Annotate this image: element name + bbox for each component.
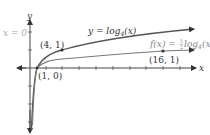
log-graph: y x x = 0 (4, 1) (1, 0) (16, 1) y = log4…: [0, 0, 210, 135]
legend-half-log4-rest: log4(x): [184, 39, 210, 50]
legend-log4: y = log4(x): [87, 26, 137, 37]
annotation-4-1: (4, 1): [40, 40, 64, 50]
point-1-0: [36, 67, 39, 70]
legend-half-log4: f(x) =: [149, 39, 176, 49]
legend-frac-den: 2: [180, 44, 183, 50]
annotation-16-1: (16, 1): [149, 55, 179, 65]
y-axis-label: y: [26, 11, 33, 21]
x-axis-label: x: [199, 63, 204, 73]
asymptote-label: x = 0: [3, 28, 27, 38]
annotation-1-0: (1, 0): [38, 71, 62, 81]
point-16-1: [161, 49, 164, 52]
